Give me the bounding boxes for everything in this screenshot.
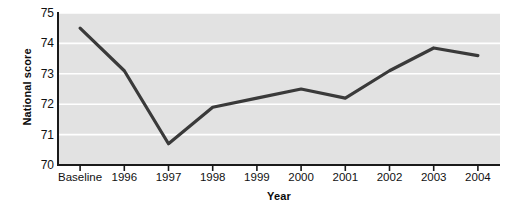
x-axis-tick-label: 1998 <box>200 172 226 184</box>
x-axis-tick-label: 2002 <box>377 172 403 184</box>
line-chart: National score 707172737475 Baseline1996… <box>0 0 513 210</box>
x-axis-tick-label: 2001 <box>333 172 359 184</box>
x-axis-tick-label: 2004 <box>465 172 491 184</box>
x-axis-tick-label: 1999 <box>244 172 270 184</box>
plot-background <box>58 13 500 165</box>
x-axis-tick-label: 1997 <box>156 172 182 184</box>
x-axis-title: Year <box>58 190 500 202</box>
x-axis-tick-label: 2003 <box>421 172 447 184</box>
x-axis-tick-label: 1996 <box>112 172 138 184</box>
x-axis-tick-label: Baseline <box>58 172 102 184</box>
x-axis-tick-label: 2000 <box>288 172 314 184</box>
